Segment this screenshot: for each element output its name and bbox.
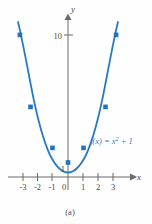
x-tick-label-1: 1 [81,182,85,192]
x-tick-label-neg3: -3 [19,182,26,192]
data-point [114,33,119,38]
x-tick-label-neg1: -1 [48,182,55,192]
data-point [103,105,108,110]
x-tick-label-3: 3 [111,182,115,192]
data-point [81,146,86,151]
x-axis-label: x [136,172,141,182]
figure-caption: (a) [65,207,75,217]
x-axis-arrow-icon [130,174,137,181]
x-tick-label-neg2: -2 [34,182,41,192]
y-tick-label-1: 1 [61,164,65,174]
equation-suffix: + 1 [119,136,133,146]
origin-label: 0 [62,182,66,192]
equation-prefix: f(x) = x [90,136,116,146]
y-tick-label-10: 10 [54,31,63,41]
y-axis-label: y [70,4,75,14]
graph-svg: x y -3 -2 -1 1 2 3 10 1 0 f(x) = x2 + 1 … [0,0,152,224]
function-equation-text: f(x) = x2 + 1 [90,136,133,146]
data-point [18,33,23,38]
data-point [66,160,71,165]
y-axis-arrow-icon [65,14,72,21]
data-point [28,105,33,110]
x-tick-label-2: 2 [96,182,100,192]
x-axis [8,174,137,181]
figure-container: x y -3 -2 -1 1 2 3 10 1 0 f(x) = x2 + 1 … [0,0,152,224]
data-point [50,146,55,151]
function-equation-label: f(x) = x2 + 1 [90,136,133,146]
